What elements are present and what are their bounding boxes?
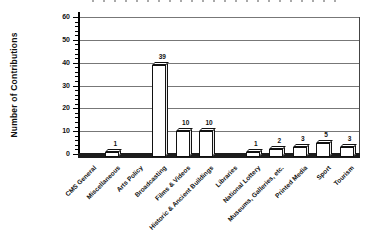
y-minor-tick-24 [75,99,78,100]
gridline-40 [78,63,359,64]
y-tick-label-30: 30 [44,82,70,89]
y-minor-tick-46 [75,49,78,50]
chart-figure: Number of Contributions 0102030405060CMS… [0,0,370,235]
y-minor-tick-12 [75,127,78,128]
y-minor-tick-28 [75,90,78,91]
bar-value-label-films-videos: 10 [175,119,197,126]
y-minor-tick-36 [75,72,78,73]
y-minor-tick-8 [75,136,78,137]
y-major-tick-60 [73,17,78,18]
y-major-tick-50 [73,40,78,41]
y-major-tick-10 [73,131,78,132]
bar-value-label-sport: 5 [315,131,337,138]
y-minor-tick-16 [75,117,78,118]
bar-sport [316,143,330,157]
bar-miscellaneous [105,152,119,157]
y-minor-tick-32 [75,81,78,82]
bar-value-label-museums-galleries-etc: 2 [268,137,290,144]
y-minor-tick-18 [75,113,78,114]
gridline-60 [78,17,359,18]
bar-historic-ancient-buildings [199,131,213,157]
gridline-30 [78,86,359,87]
plot-right-border [359,17,360,154]
bar-printed-media [293,147,307,157]
y-minor-tick-56 [75,26,78,27]
y-minor-tick-48 [75,44,78,45]
y-minor-tick-6 [75,140,78,141]
y-minor-tick-58 [75,22,78,23]
y-tick-label-20: 20 [44,104,70,111]
y-minor-tick-38 [75,67,78,68]
bar-value-label-national-lottery: 1 [245,140,267,147]
y-axis-line [78,12,80,158]
gridline-50 [78,40,359,41]
y-minor-tick-26 [75,95,78,96]
y-minor-tick-34 [75,76,78,77]
bar-films-videos [176,131,190,157]
y-major-tick-40 [73,63,78,64]
x-axis-label-sport: Sport [315,164,332,181]
y-minor-tick-44 [75,54,78,55]
bar-broadcasting [152,65,166,157]
y-tick-label-50: 50 [44,36,70,43]
y-minor-tick-42 [75,58,78,59]
y-tick-label-40: 40 [44,59,70,66]
y-minor-tick-22 [75,104,78,105]
y-tick-label-10: 10 [44,127,70,134]
plot-area: 0102030405060CMS General1MiscellaneousAr… [0,0,370,235]
bar-value-label-broadcasting: 39 [151,53,173,60]
y-minor-tick-2 [75,149,78,150]
y-minor-tick-52 [75,35,78,36]
x-axis-label-tourism: Tourism [332,164,355,187]
bar-value-label-tourism: 3 [339,135,361,142]
bar-value-label-historic-ancient-buildings: 10 [198,119,220,126]
y-minor-tick-54 [75,31,78,32]
gridline-20 [78,108,359,109]
bar-national-lottery [246,152,260,157]
bar-museums-galleries-etc [269,149,283,157]
y-major-tick-20 [73,108,78,109]
y-tick-label-0: 0 [44,150,70,157]
bar-value-label-miscellaneous: 1 [104,140,126,147]
y-tick-label-60: 60 [44,13,70,20]
bar-value-label-printed-media: 3 [292,135,314,142]
y-minor-tick-14 [75,122,78,123]
y-minor-tick-4 [75,145,78,146]
y-major-tick-30 [73,86,78,87]
bar-tourism [340,147,354,157]
